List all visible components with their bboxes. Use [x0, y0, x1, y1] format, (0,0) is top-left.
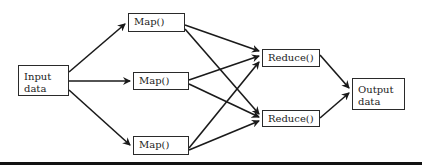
reduce-node-2: Reduce() [262, 110, 320, 127]
map-node-2: Map() [133, 72, 189, 90]
map-node-3-label: Map() [139, 139, 169, 150]
edge-input-map1 [69, 24, 125, 72]
input-data-node: Input data [18, 65, 69, 96]
reduce-node-1: Reduce() [262, 49, 320, 67]
input-data-label-line2: data [24, 83, 68, 95]
edge-map2-reduce2 [189, 84, 259, 117]
map-node-1: Map() [128, 13, 185, 32]
output-data-label-line2: data [358, 96, 404, 108]
map-node-1-label: Map() [134, 16, 164, 27]
output-data-label-line1: Output [358, 84, 404, 96]
edge-input-map3 [69, 90, 130, 145]
input-data-label-line1: Input [24, 71, 68, 83]
edge-reduce2-output [320, 93, 349, 118]
edge-reduce1-output [320, 55, 349, 88]
bottom-divider [0, 162, 422, 165]
edge-map2-reduce1 [189, 56, 259, 80]
output-data-node: Output data [352, 78, 405, 110]
reduce-node-1-label: Reduce() [268, 52, 314, 63]
map-node-3: Map() [133, 136, 189, 155]
reduce-node-2-label: Reduce() [268, 113, 314, 124]
edge-map1-reduce1 [185, 25, 259, 51]
map-node-2-label: Map() [139, 75, 169, 86]
edge-map1-reduce2 [185, 29, 259, 114]
mapreduce-diagram: Input data Map() Map() Map() Reduce() Re… [0, 0, 422, 167]
